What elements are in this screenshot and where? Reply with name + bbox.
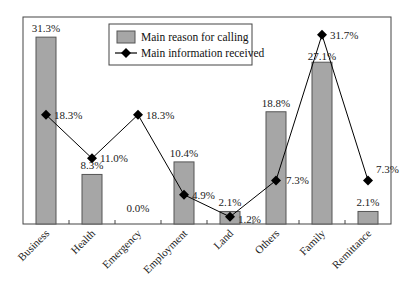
chart: 31.3%8.3%0.0%10.4%2.1%18.8%27.1%2.1% 18.…: [0, 0, 414, 289]
line-value-label: 7.3%: [286, 174, 309, 186]
line-value-label: 18.3%: [146, 109, 174, 121]
bar-value-label: 2.1%: [357, 196, 380, 208]
line-value-label: 31.7%: [330, 29, 358, 41]
bar-value-label: 27.1%: [308, 50, 336, 62]
category-label: Remittance: [330, 227, 374, 271]
legend: Main reason for calling Main information…: [109, 24, 265, 65]
bar-value-label: 10.4%: [170, 147, 198, 159]
legend-label-bars: Main reason for calling: [141, 31, 249, 44]
bar: [36, 37, 56, 224]
category-label: Land: [211, 227, 236, 252]
category-label: Family: [297, 227, 328, 258]
bar-value-label: 2.1%: [219, 196, 242, 208]
legend-bar-swatch: [117, 31, 135, 43]
bar: [266, 112, 286, 224]
line-value-label: 7.3%: [376, 163, 399, 175]
line-value-label: 4.9%: [192, 189, 215, 201]
bar: [358, 211, 378, 224]
bar-value-label: 18.8%: [262, 97, 290, 109]
line-value-label: 11.0%: [100, 152, 128, 164]
legend-label-line: Main information received: [141, 47, 265, 59]
category-label: Health: [68, 227, 98, 257]
bar-value-label: 0.0%: [127, 202, 150, 214]
bar: [312, 62, 332, 224]
bar: [82, 174, 102, 224]
category-label: Business: [15, 227, 51, 263]
category-label: Employment: [141, 227, 190, 276]
bar-value-label: 31.3%: [32, 22, 60, 34]
x-axis-category-labels: BusinessHealthEmergencyEmploymentLandOth…: [15, 227, 373, 276]
line-value-label: 18.3%: [54, 109, 82, 121]
category-label: Others: [252, 227, 281, 256]
line-value-label: 1.2%: [238, 213, 261, 225]
category-label: Emergency: [100, 227, 144, 271]
